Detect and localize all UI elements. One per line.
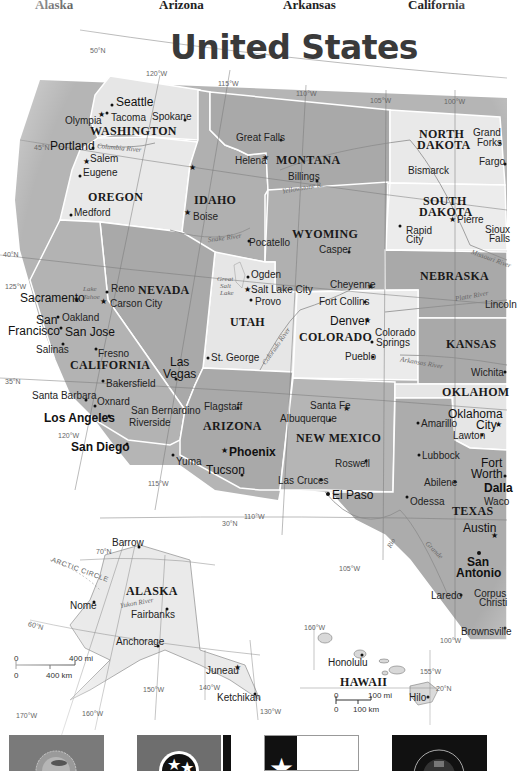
texas-star-icon: ★	[265, 736, 359, 771]
city-label-honolulu: Honolulu	[328, 658, 367, 668]
city-label-oakland: Oakland	[62, 313, 99, 323]
city-label-san-diego: San Diego	[71, 441, 130, 453]
city-label-spokane: Spokane	[152, 112, 191, 122]
city-label-seattle: Seattle	[116, 96, 153, 108]
flag-south-dakota[interactable]	[9, 735, 104, 771]
graticule-label: 110°W	[296, 90, 317, 97]
city-label-barrow: Barrow	[112, 538, 144, 548]
city-label-portland: Portland	[50, 140, 95, 152]
graticule-label: 125°W	[5, 283, 26, 290]
city-label-san-bernardino: San Bernardino	[131, 406, 201, 416]
city-label-albuquerque: Albuquerque	[280, 414, 337, 424]
graticule-label: 30°N	[222, 520, 238, 527]
alaska-scale-mi-zero: 0	[14, 655, 18, 663]
state-label-new-mexico: NEW MEXICO	[296, 432, 381, 444]
graticule-label: 120°W	[146, 70, 167, 77]
graticule-label: 100°W	[440, 637, 461, 644]
graticule-label: 115°W	[148, 480, 169, 487]
svg-text:★: ★	[167, 756, 181, 771]
graticule-label: 155°W	[420, 668, 441, 675]
city-label-pocatello: Pocatello	[249, 238, 290, 248]
city-label-san-antonio-2: Antonio	[456, 567, 501, 579]
city-label-salinas: Salinas	[36, 345, 69, 355]
city-label-fresno: Fresno	[98, 349, 129, 359]
graticule-label: 20°N	[436, 685, 452, 692]
graticule-label: 150°W	[143, 686, 164, 693]
hawaii-scale-km-zero: 0	[334, 706, 338, 714]
city-label-el-paso: El Paso	[332, 489, 373, 501]
city-label-reno: Reno	[111, 284, 135, 294]
city-label-helena: Helena	[235, 156, 267, 166]
city-label-las-cruces: Las Cruces	[278, 476, 329, 486]
city-label-eugene: Eugene	[83, 168, 117, 178]
map-title: United States	[170, 28, 418, 67]
city-label-oxnard: Oxnard	[97, 397, 130, 407]
city-label-hilo: Hilo	[409, 693, 426, 703]
city-label-pueblo: Pueblo	[345, 352, 376, 362]
state-label-utah: UTAH	[230, 316, 265, 328]
graticule-label: 120°W	[58, 432, 79, 439]
city-label-nome: Nome	[70, 601, 97, 611]
city-label-austin: Austin	[463, 522, 496, 534]
city-label-provo: Provo	[255, 297, 281, 307]
city-label-ogden: Ogden	[251, 270, 281, 280]
graticule-label: 160°W	[82, 710, 103, 717]
city-label-pierre: Pierre	[457, 215, 484, 225]
city-label-bakersfield: Bakersfield	[106, 379, 155, 389]
city-label-roswell: Roswell	[335, 459, 370, 469]
state-label-idaho: IDAHO	[194, 194, 236, 206]
graticule-label: 105°W	[339, 565, 360, 572]
state-label-wyoming: WYOMING	[292, 228, 358, 240]
city-label-brownsville: Brownsville	[461, 627, 512, 637]
city-label-boise: Boise	[193, 212, 218, 222]
state-label-montana: MONTANA	[276, 154, 341, 166]
city-label-great-falls: Great Falls	[236, 133, 285, 143]
tennessee-stars-icon: ★ ★	[137, 735, 231, 771]
graticule-label: 50°N	[90, 47, 106, 54]
city-label-sacramento: Sacramento	[20, 292, 85, 304]
city-label-cheyenne: Cheyenne	[330, 280, 376, 290]
flag-wisconsin[interactable]	[392, 735, 487, 771]
state-label-nebraska: NEBRASKA	[420, 270, 489, 282]
city-label-santa-fe: Santa Fe	[310, 401, 351, 411]
alaska-scale-km-zero: 0	[14, 672, 18, 680]
flag-tennessee[interactable]: ★ ★	[137, 735, 231, 771]
city-label-salem: Salem	[90, 154, 118, 164]
city-label-lawton: Lawton	[453, 431, 485, 441]
state-label-oregon: OREGON	[88, 191, 143, 203]
city-label-flagstaff: Flagstaff	[204, 402, 242, 412]
lake-label-tahoe-2: Tahoe	[83, 294, 100, 301]
graticule-label: 115°W	[218, 80, 239, 87]
state-label-hawaii: HAWAII	[340, 676, 387, 688]
city-label-corpus-christi-2: Christi	[479, 598, 507, 608]
city-label-fort-worth-2: Worth	[471, 468, 503, 480]
graticule-label: 35°N	[5, 378, 21, 385]
city-label-lubbock: Lubbock	[422, 451, 460, 461]
city-label-las-vegas-2: Vegas	[163, 368, 196, 380]
wisconsin-seal-icon	[392, 735, 487, 771]
city-label-tucson: Tucson	[206, 464, 245, 476]
lake-label-gsl-3: Lake	[220, 290, 234, 297]
city-label-abilene: Abilene	[424, 478, 457, 488]
hawaii-scale-mi-zero: 0	[334, 692, 338, 700]
graticule-label: 100°W	[444, 98, 465, 105]
city-label-san-jose: San Jose	[65, 326, 115, 338]
graticule-label: 70°N	[96, 548, 112, 555]
city-label-grand-forks-2: Forks	[477, 138, 502, 148]
city-label-billings: Billings	[288, 172, 320, 182]
state-label-california: CALIFORNIA	[70, 359, 150, 371]
state-label-arizona: ARIZONA	[203, 420, 262, 432]
graticule-label: 105°W	[370, 97, 391, 104]
graticule-label: 140°W	[199, 684, 220, 691]
city-label-denver: Denver	[330, 315, 369, 327]
city-label-santa-barbara: Santa Barbara	[32, 391, 97, 401]
state-label-oklahoma: OKLAHOM	[442, 386, 509, 398]
hawaii-scale-mi: 100 mi	[368, 692, 392, 700]
graticule-label: 110°W	[244, 513, 265, 520]
state-label-nevada: NEVADA	[138, 284, 190, 296]
city-label-sioux-falls-2: Falls	[489, 234, 510, 244]
graticule-label: 170°W	[16, 712, 37, 719]
flag-texas[interactable]: ★	[264, 735, 359, 771]
city-label-salt-lake-city: Salt Lake City	[251, 285, 313, 295]
city-label-fargo: Fargo	[479, 157, 505, 167]
